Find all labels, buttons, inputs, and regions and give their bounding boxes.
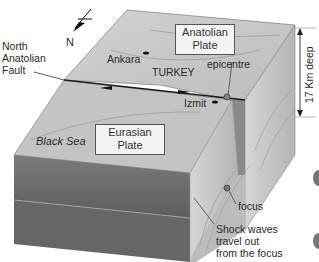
focus-label: focus — [238, 200, 263, 212]
north-arrow-icon — [73, 9, 92, 32]
epicentre-marker — [224, 94, 230, 100]
epicentre-label: epicentre — [207, 58, 250, 70]
shock-waves-label: Shock waves travel out from the focus — [216, 223, 283, 259]
country-label: TURKEY — [152, 66, 195, 78]
compass-label: N — [66, 36, 74, 48]
black-sea-label: Black Sea — [36, 135, 86, 147]
depth-label: 17 Km deep — [303, 46, 315, 103]
focus-marker — [224, 185, 230, 191]
eurasian-plate-label: Eurasian Plate — [95, 124, 165, 155]
anatolian-plate-label: Anatolian Plate — [175, 24, 235, 55]
ankara-marker — [143, 51, 149, 54]
izmit-marker — [212, 100, 218, 103]
fault-label: North Anatolian Fault — [2, 40, 46, 76]
ankara-label: Ankara — [107, 53, 140, 65]
izmit-label: Izmit — [184, 97, 206, 109]
